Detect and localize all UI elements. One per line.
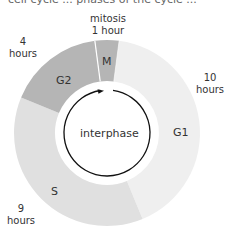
g2-hours-number: 4	[8, 36, 38, 48]
label-mitosis-duration: mitosis 1 hour	[88, 13, 128, 37]
mitosis-label: mitosis	[88, 13, 128, 25]
g1-hours-unit: hours	[195, 84, 225, 96]
segment-label-g2: G2	[56, 74, 72, 87]
s-hours-number: 9	[6, 203, 36, 215]
g2-hours-unit: hours	[8, 48, 38, 60]
center-label-interphase: interphase	[80, 127, 134, 140]
g1-hours-number: 10	[195, 72, 225, 84]
arrowhead-icon	[98, 89, 105, 94]
s-hours-unit: hours	[6, 215, 36, 227]
segment-label-g1: G1	[173, 126, 189, 139]
label-g1-duration: 10 hours	[195, 72, 225, 96]
label-g2-duration: 4 hours	[8, 36, 38, 60]
segment-label-s: S	[51, 185, 58, 198]
label-s-duration: 9 hours	[6, 203, 36, 227]
segment-label-m: M	[102, 55, 112, 68]
mitosis-hours: 1 hour	[88, 25, 128, 37]
